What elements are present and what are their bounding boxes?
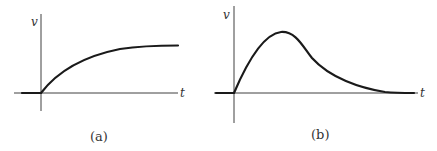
- graph-b-y-label: v: [223, 8, 230, 22]
- figure-canvas: v t (a) v t (b): [0, 0, 437, 151]
- graph-b: v t (b): [214, 6, 425, 142]
- graph-b-curve: [216, 32, 414, 93]
- graph-b-x-label: t: [420, 86, 425, 100]
- graph-b-caption: (b): [311, 127, 329, 142]
- graph-a-x-label: t: [180, 86, 185, 100]
- graph-a-curve: [22, 46, 178, 94]
- graph-a: v t (a): [14, 14, 185, 144]
- graph-a-caption: (a): [90, 129, 108, 144]
- graph-a-y-label: v: [31, 15, 38, 29]
